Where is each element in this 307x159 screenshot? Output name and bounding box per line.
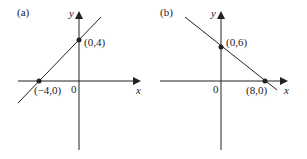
point-neg4-0 <box>37 79 42 84</box>
origin-label: 0 <box>71 83 77 95</box>
x-axis-label: x <box>135 84 141 96</box>
panel-b: (b) x y 0 (0,6) (8,0) <box>160 6 289 150</box>
line-b <box>185 17 277 90</box>
panel-a-tag: (a) <box>17 6 30 19</box>
y-axis-label: y <box>210 7 216 19</box>
y-axis-label: y <box>68 7 74 19</box>
point-8-0 <box>263 79 268 84</box>
point-0-4-label: (0,4) <box>84 36 105 49</box>
panel-a: (a) x y 0 (0,4) (−4,0) <box>17 6 141 150</box>
panel-b-tag: (b) <box>160 6 173 19</box>
x-axis-label: x <box>283 84 289 96</box>
origin-label: 0 <box>213 83 219 95</box>
point-8-0-label: (8,0) <box>246 84 267 97</box>
point-0-4 <box>77 38 82 43</box>
point-0-6-label: (0,6) <box>226 36 247 49</box>
point-neg4-0-label: (−4,0) <box>34 84 62 97</box>
graphs-figure: (a) x y 0 (0,4) (−4,0) (b) x y 0 (0,6) (… <box>0 0 307 159</box>
point-0-6 <box>219 45 224 50</box>
